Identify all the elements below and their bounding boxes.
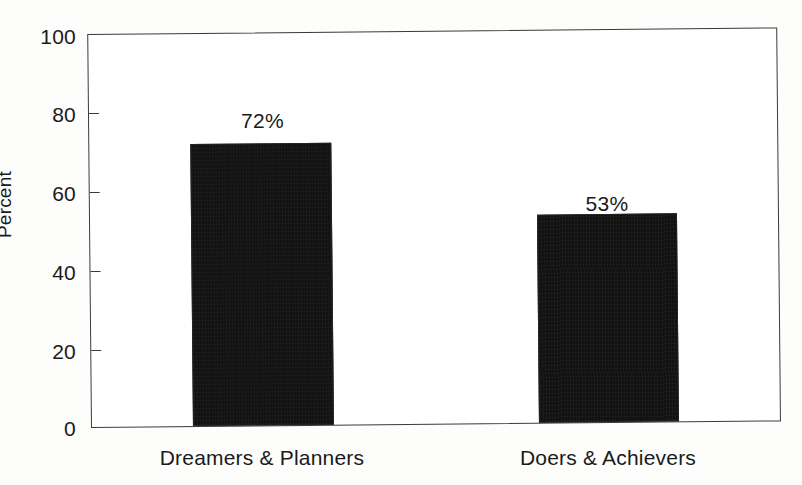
y-tick-label-0: 0 (20, 418, 76, 439)
x-category-label-doers-and-achievers: Doers & Achievers (490, 447, 726, 468)
plot-area (87, 27, 781, 428)
chart-page: Percent 100 80 60 40 20 0 72% 53% Dreame… (0, 0, 802, 485)
y-tick-label-80: 80 (20, 104, 76, 125)
y-tick-mark-20 (91, 350, 101, 351)
bar-value-label-doers-and-achievers: 53% (537, 193, 677, 214)
y-tick-label-100: 100 (20, 26, 76, 47)
bar-value-label-dreamers-and-planners: 72% (192, 110, 333, 131)
y-tick-mark-60 (90, 192, 100, 193)
y-tick-label-20: 20 (20, 341, 76, 362)
bar-doers-and-achievers[interactable] (537, 214, 679, 423)
bar-dreamers-and-planners[interactable] (190, 142, 334, 426)
x-category-label-dreamers-and-planners: Dreamers & Planners (142, 447, 382, 468)
y-tick-label-60: 60 (20, 183, 76, 204)
y-tick-label-40: 40 (20, 262, 76, 283)
y-tick-mark-80 (89, 113, 99, 114)
y-axis-title: Percent (0, 171, 16, 238)
y-tick-mark-40 (90, 271, 100, 272)
